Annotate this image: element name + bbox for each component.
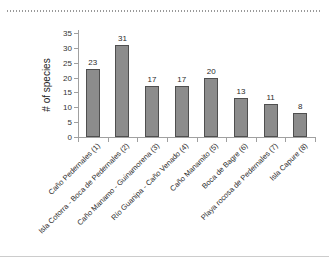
bar (234, 98, 248, 137)
bar (264, 104, 278, 137)
y-axis-tick (74, 107, 78, 108)
y-tick-label: 35 (56, 29, 72, 38)
x-category-label: Caño Pedernales (1) (47, 142, 102, 197)
bar-value-label: 13 (230, 87, 252, 96)
y-tick-label: 15 (56, 88, 72, 97)
y-tick-label: 10 (56, 103, 72, 112)
y-axis-tick (74, 122, 78, 123)
bar-value-label: 20 (200, 67, 222, 76)
y-axis-title: # of species (41, 32, 53, 138)
top-dotted-divider (7, 10, 322, 12)
y-axis-tick (74, 63, 78, 64)
y-tick-label: 20 (56, 74, 72, 83)
x-axis-tick (285, 138, 286, 142)
x-axis-tick (108, 138, 109, 142)
x-axis-tick (197, 138, 198, 142)
x-axis-tick (78, 138, 79, 142)
y-axis-tick (74, 48, 78, 49)
bar-value-label: 8 (289, 102, 311, 111)
y-axis-tick (74, 33, 78, 34)
bar (204, 78, 218, 137)
bar (115, 45, 129, 137)
bar-value-label: 17 (141, 75, 163, 84)
y-axis-line (78, 30, 79, 138)
bottom-divider (0, 256, 329, 257)
bar-value-label: 11 (260, 93, 282, 102)
bar (145, 86, 159, 137)
y-tick-label: 5 (56, 118, 72, 127)
bar-chart-figure: # of species 0510152025303523Caño Pedern… (0, 0, 329, 270)
y-tick-label: 25 (56, 59, 72, 68)
y-tick-label: 30 (56, 44, 72, 53)
x-axis-tick (137, 138, 138, 142)
x-axis-tick (167, 138, 168, 142)
bar (175, 86, 189, 137)
bar-value-label: 31 (111, 34, 133, 43)
bar (86, 69, 100, 137)
x-axis-tick (315, 138, 316, 142)
y-axis-tick (74, 78, 78, 79)
x-axis-tick (226, 138, 227, 142)
y-tick-label: 0 (56, 133, 72, 142)
bar-value-label: 23 (82, 58, 104, 67)
bar-value-label: 17 (171, 75, 193, 84)
bar (293, 113, 307, 137)
y-axis-tick (74, 92, 78, 93)
x-axis-tick (256, 138, 257, 142)
